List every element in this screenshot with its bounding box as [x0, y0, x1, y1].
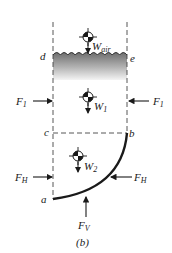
- point-label-e: e: [130, 52, 135, 64]
- label-fv: FV: [77, 219, 91, 233]
- label-f1-right: F1: [152, 95, 164, 109]
- point-label-b: b: [129, 127, 135, 139]
- label-w1: W1: [94, 100, 107, 114]
- water-body: [53, 53, 127, 81]
- label-w-air: Wair: [92, 40, 111, 54]
- point-label-a: a: [41, 193, 47, 205]
- point-label-c: c: [44, 126, 49, 138]
- point-label-d: d: [40, 50, 46, 62]
- control-volume-boundary: [53, 22, 127, 199]
- label-fh-right: FH: [133, 171, 148, 185]
- label-f1-left: F1: [15, 95, 27, 109]
- free-body-diagram: d e c b a Wair W1 W2 F1 F1 FH FH FV (b): [0, 0, 172, 253]
- label-w2: W2: [84, 160, 97, 174]
- figure-caption: (b): [76, 236, 89, 249]
- label-fh-left: FH: [14, 171, 29, 185]
